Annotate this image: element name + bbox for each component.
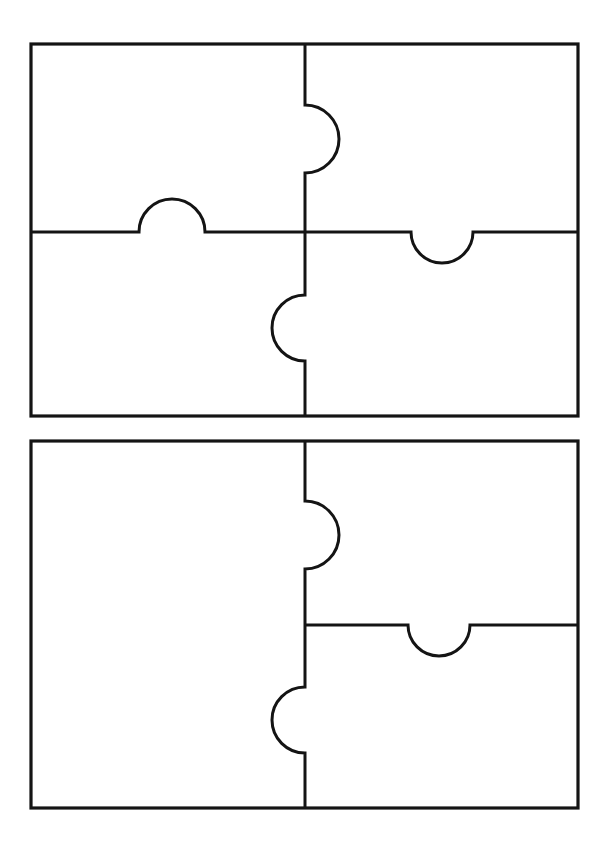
puzzle-bottom-figure [0, 430, 605, 859]
worksheet-page [0, 0, 605, 859]
puzzle-top-figure [0, 0, 605, 430]
